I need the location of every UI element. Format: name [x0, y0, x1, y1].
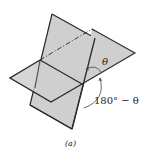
supplement-angle-label: 180° − θ: [94, 95, 139, 106]
theta-label: θ: [102, 56, 108, 67]
figure-caption: (a): [65, 139, 76, 148]
intersecting-planes-diagram: θ 180° − θ (a): [0, 0, 146, 158]
